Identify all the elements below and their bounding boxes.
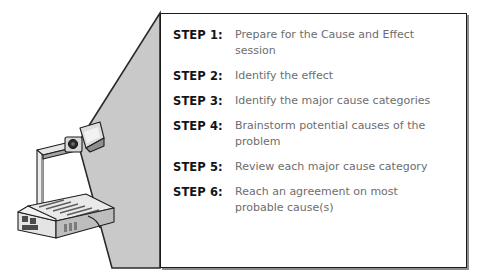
steps-list: STEP 1: Prepare for the Cause and Effect… [173,27,458,216]
step-description: Brainstorm potential causes of the probl… [235,118,440,150]
step-row: STEP 2: Identify the effect [173,68,458,84]
step-label: STEP 5: [173,159,235,175]
step-label: STEP 2: [173,68,235,84]
step-description: Reach an agreement on most probable caus… [235,184,440,216]
step-description: Identify the major cause categories [235,93,440,109]
steps-box: STEP 1: Prepare for the Cause and Effect… [160,13,467,268]
step-description: Identify the effect [235,68,440,84]
figure-canvas: STEP 1: Prepare for the Cause and Effect… [0,0,479,278]
step-row: STEP 1: Prepare for the Cause and Effect… [173,27,458,59]
overhead-projector-illustration [8,120,120,240]
step-row: STEP 3: Identify the major cause categor… [173,93,458,109]
step-label: STEP 4: [173,118,235,134]
step-row: STEP 5: Review each major cause category [173,159,458,175]
step-label: STEP 1: [173,27,235,43]
step-description: Review each major cause category [235,159,440,175]
step-label: STEP 6: [173,184,235,200]
step-label: STEP 3: [173,93,235,109]
step-row: STEP 6: Reach an agreement on most proba… [173,184,458,216]
step-row: STEP 4: Brainstorm potential causes of t… [173,118,458,150]
step-description: Prepare for the Cause and Effect session [235,27,440,59]
